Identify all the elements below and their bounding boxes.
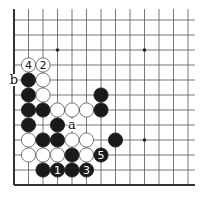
white-stone — [65, 103, 79, 117]
black-stone — [36, 163, 50, 177]
star-point — [143, 48, 147, 52]
move-number: 1 — [54, 164, 61, 177]
white-stone — [21, 133, 35, 147]
black-stone — [94, 103, 108, 117]
white-stone — [79, 133, 93, 147]
white-stone — [79, 103, 93, 117]
star-point — [56, 48, 60, 52]
white-stone — [50, 103, 64, 117]
white-stone — [36, 148, 50, 162]
white-stone: 4 — [21, 58, 35, 72]
white-stone — [36, 88, 50, 102]
black-stone — [36, 103, 50, 117]
black-stone — [108, 133, 122, 147]
white-stone: 2 — [36, 58, 50, 72]
black-stone: 3 — [79, 163, 93, 177]
move-number: 5 — [98, 149, 105, 162]
move-number: 4 — [25, 59, 32, 72]
black-stone — [36, 133, 50, 147]
move-number: 2 — [40, 59, 47, 72]
black-stone — [21, 118, 35, 132]
black-stone — [21, 73, 35, 87]
black-stone — [21, 88, 35, 102]
black-stone — [65, 148, 79, 162]
white-stone — [36, 73, 50, 87]
point-label-a: a — [68, 117, 76, 132]
white-stone — [50, 148, 64, 162]
go-board: 42513 ba — [0, 0, 209, 203]
black-stone — [50, 133, 64, 147]
move-number: 3 — [83, 164, 90, 177]
black-stone — [94, 88, 108, 102]
black-stone — [50, 118, 64, 132]
black-stone: 1 — [50, 163, 64, 177]
black-stone: 5 — [94, 148, 108, 162]
white-stone — [79, 148, 93, 162]
black-stone — [65, 163, 79, 177]
black-stone — [21, 103, 35, 117]
point-label-b: b — [10, 72, 18, 87]
star-point — [143, 138, 147, 142]
white-stone — [65, 133, 79, 147]
white-stone — [21, 148, 35, 162]
